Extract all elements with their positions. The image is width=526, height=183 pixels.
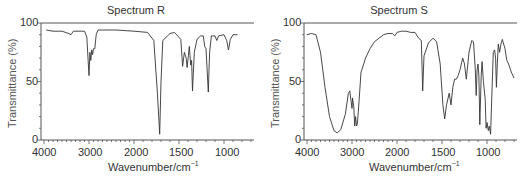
y-axis-label: Transmittance (%) [269, 39, 281, 128]
spectrum-s-panel: Spectrum S Transmittance (%) 100 50 0 40… [263, 0, 526, 183]
x-axis-label-exponent: −1 [452, 160, 460, 167]
x-axis-label: Wavenumber/cm−1 [369, 160, 460, 173]
x-tick-4000: 4000 [32, 146, 56, 158]
x-axis-label-text: Wavenumber/cm [369, 161, 452, 173]
x-tick-2000: 2000 [385, 146, 409, 158]
x-tick-2000: 2000 [124, 146, 148, 158]
y-axis-label: Transmittance (%) [6, 39, 18, 128]
x-axis-label: Wavenumber/cm−1 [108, 160, 199, 173]
x-tick-3000: 3000 [78, 146, 102, 158]
y-tick-100: 100 [283, 16, 301, 28]
spectrum-r-panel: Spectrum R Transmittance (%) 100 50 0 40… [0, 0, 263, 183]
y-tick-50: 50 [26, 75, 38, 87]
x-tick-1500: 1500 [169, 146, 193, 158]
x-tick-1000: 1000 [215, 146, 239, 158]
x-tick-1500: 1500 [431, 146, 455, 158]
x-tick-3000: 3000 [340, 146, 364, 158]
x-axis-label-text: Wavenumber/cm [108, 161, 191, 173]
x-tick-4000: 4000 [295, 146, 319, 158]
y-tick-100: 100 [20, 16, 38, 28]
y-tick-50: 50 [289, 75, 301, 87]
y-tick-0: 0 [295, 133, 301, 145]
x-tick-1000: 1000 [476, 146, 500, 158]
x-axis-label-exponent: −1 [191, 160, 199, 167]
y-tick-0: 0 [32, 133, 38, 145]
